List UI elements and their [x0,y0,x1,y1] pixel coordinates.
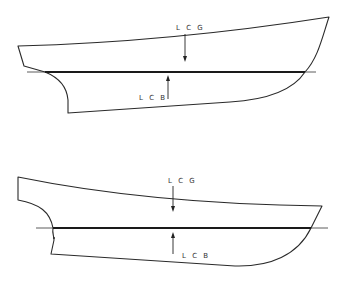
arrow-down-icon [183,56,187,62]
lower-hull-outline [18,177,322,266]
arrow-up-icon [171,232,175,238]
ship-lcg-lcb-diagram: L C G L C B L C G L C B [0,0,347,281]
upper-hull-outline [18,17,329,113]
lower-ship-figure: L C G L C B [18,177,328,266]
lower-lcb-label: L C B [182,252,210,260]
lower-lcb-arrow [171,232,175,254]
upper-lcg-arrow [183,34,187,62]
stern-mark [53,237,55,239]
lower-lcg-label: L C G [168,177,197,185]
upper-ship-figure: L C G L C B [18,17,329,113]
arrow-up-icon [166,75,170,81]
upper-lcb-label: L C B [139,94,167,102]
upper-lcg-label: L C G [176,24,205,32]
arrow-down-icon [171,206,175,212]
